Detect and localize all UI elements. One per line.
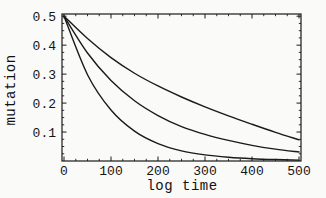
curve-middle-medium-decay	[64, 16, 299, 152]
y-tick-label: 0.3	[33, 68, 56, 83]
plot-frame	[62, 14, 301, 161]
y-tick-label: 0.4	[33, 39, 57, 54]
curve-top-slow-decay	[64, 16, 299, 140]
y-axis-label: mutation	[3, 50, 19, 130]
curve-bottom-fast-decay	[64, 16, 299, 160]
x-tick-label: 200	[146, 164, 169, 179]
x-tick-label: 0	[60, 164, 68, 179]
x-tick-label: 100	[99, 164, 122, 179]
x-tick-label: 300	[193, 164, 216, 179]
x-axis-label: log time	[122, 178, 242, 194]
y-tick-label: 0.1	[33, 126, 57, 141]
plot-canvas: 01002003004005000.10.20.30.40.5	[0, 0, 326, 198]
y-tick-label: 0.2	[33, 97, 56, 112]
y-tick-label: 0.5	[33, 10, 56, 25]
x-tick-label: 400	[240, 164, 263, 179]
mutation-decay-figure: 01002003004005000.10.20.30.40.5 mutation…	[0, 0, 326, 198]
x-tick-label: 500	[287, 164, 310, 179]
